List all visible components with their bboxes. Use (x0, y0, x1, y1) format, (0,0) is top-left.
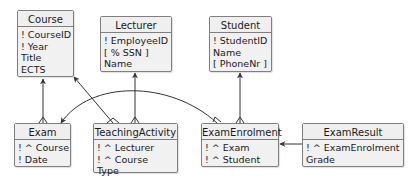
attribute: ! Date (18, 154, 67, 166)
attribute: ! ^ ExamEnrolment (306, 142, 400, 154)
attribute: ! StudentID (213, 35, 268, 47)
attribute: ECTS (21, 64, 70, 76)
attribute: ! Year (21, 41, 70, 53)
entity-title: Student (210, 17, 271, 33)
entity-course[interactable]: Course ! CourseID ! Year Title ECTS (17, 10, 74, 77)
entity-attributes: ! EmployeeID [ % SSN ] Name (101, 33, 171, 70)
edge-examenrolment-exam (61, 91, 221, 123)
attribute: Name (104, 58, 168, 70)
entity-title: ExamEnrolment (202, 124, 278, 140)
entity-title: Course (18, 11, 73, 27)
edge-examenrolment-student (236, 73, 244, 123)
attribute: Type (97, 165, 174, 177)
attribute: ! CourseID (21, 29, 70, 41)
entity-examenrolment[interactable]: ExamEnrolment ! ^ Exam ! ^ Student (201, 123, 279, 167)
entity-examresult[interactable]: ExamResult ! ^ ExamEnrolment Grade (302, 123, 404, 167)
attribute: ! ^ Lecturer (97, 142, 174, 154)
entity-attributes: ! ^ Exam ! ^ Student (202, 140, 278, 165)
entity-attributes: ! ^ Course ! Date (15, 140, 70, 165)
attribute: ! ^ Student (205, 154, 275, 166)
entity-attributes: ! ^ Lecturer ! ^ Course Type (94, 140, 177, 177)
attribute: Name (213, 47, 268, 59)
edge-teachingactivity-course (74, 77, 119, 123)
entity-teachingactivity[interactable]: TeachingActivity ! ^ Lecturer ! ^ Course… (93, 123, 178, 173)
attribute: ! ^ Course (18, 142, 67, 154)
attribute: [ PhoneNr ] (213, 58, 268, 70)
entity-exam[interactable]: Exam ! ^ Course ! Date (14, 123, 71, 167)
entity-student[interactable]: Student ! StudentID Name [ PhoneNr ] (209, 16, 272, 72)
entity-attributes: ! StudentID Name [ PhoneNr ] (210, 33, 271, 70)
entity-title: Lecturer (101, 17, 171, 33)
entity-title: TeachingActivity (94, 124, 177, 140)
attribute: ! ^ Exam (205, 142, 275, 154)
attribute: ! ^ Course (97, 154, 174, 166)
entity-title: ExamResult (303, 124, 403, 140)
edge-teachingactivity-lecturer (131, 73, 139, 123)
entity-attributes: ! ^ ExamEnrolment Grade (303, 140, 403, 165)
attribute: [ % SSN ] (104, 47, 168, 59)
entity-lecturer[interactable]: Lecturer ! EmployeeID [ % SSN ] Name (100, 16, 172, 72)
entity-title: Exam (15, 124, 70, 140)
attribute: Grade (306, 154, 400, 166)
attribute: ! EmployeeID (104, 35, 168, 47)
entity-attributes: ! CourseID ! Year Title ECTS (18, 27, 73, 75)
attribute: Title (21, 52, 70, 64)
edge-exam-course (39, 79, 47, 123)
